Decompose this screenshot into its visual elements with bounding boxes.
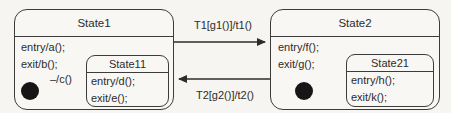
state11-box: State11 entry/d(); exit/e();	[86, 55, 169, 107]
state11-exit-action: exit/e();	[91, 92, 128, 104]
state21-exit-action: exit/k();	[351, 91, 387, 103]
initial-state-icon	[21, 82, 39, 100]
transition-t1-label: T1[g1()]/t1()	[178, 19, 268, 31]
statechart-diagram: State1 entry/a(); exit/b(); –/c() State1…	[0, 0, 451, 113]
state1-exit-action: exit/b();	[21, 58, 58, 70]
state2-entry-action: entry/f();	[278, 41, 319, 53]
state21-title: State21	[347, 55, 433, 72]
state2-title: State2	[271, 10, 439, 37]
state1-box: State1 entry/a(); exit/b(); –/c() State1…	[14, 9, 174, 110]
state1-title: State1	[15, 10, 173, 37]
state2-exit-action: exit/g();	[278, 58, 315, 70]
transition-t2-label: T2[g2()]/t2()	[180, 89, 270, 101]
state2-box: State2 entry/f(); exit/g(); State21 entr…	[270, 9, 440, 110]
state21-entry-action: entry/h();	[351, 74, 395, 86]
state11-title: State11	[87, 56, 168, 73]
state1-initial-transition-label: –/c()	[41, 73, 81, 85]
state11-entry-action: entry/d();	[91, 75, 135, 87]
state1-entry-action: entry/a();	[21, 41, 65, 53]
state21-box: State21 entry/h(); exit/k();	[346, 54, 434, 107]
initial-state-icon	[295, 82, 313, 100]
